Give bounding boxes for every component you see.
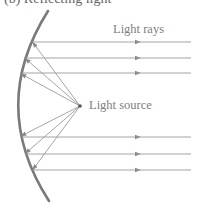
incident-rays bbox=[23, 44, 80, 168]
light-source-label: Light source bbox=[89, 98, 152, 113]
concave-mirror bbox=[18, 11, 49, 201]
light-rays-label: Light rays bbox=[113, 22, 164, 37]
light-source-point bbox=[78, 104, 82, 108]
figure-caption: (b) Reflecting light bbox=[4, 0, 111, 7]
parabolic-mirror-diagram: (b) Reflecting light bbox=[0, 0, 202, 210]
